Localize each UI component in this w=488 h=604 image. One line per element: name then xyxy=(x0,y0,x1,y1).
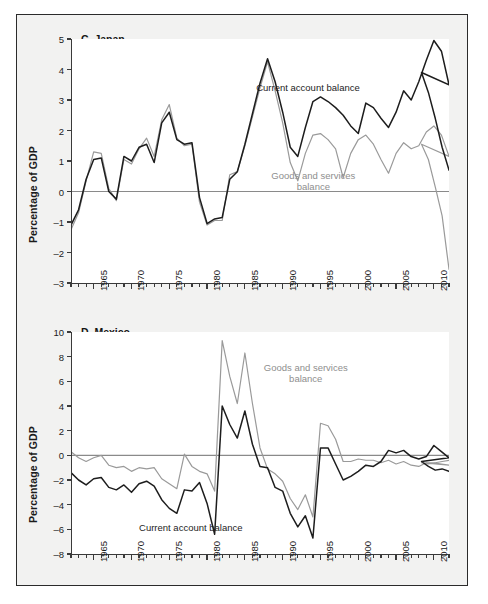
x-axis-minor-tick xyxy=(78,554,79,558)
y-axis-tick-label: 1 xyxy=(41,156,64,167)
y-axis-tick-label: 0 xyxy=(41,450,64,461)
x-axis-major-tick xyxy=(206,554,207,560)
series-annotation: Current account balance xyxy=(139,522,243,534)
x-axis-minor-tick xyxy=(229,283,230,287)
x-axis-minor-tick xyxy=(146,283,147,287)
y-axis-tick xyxy=(67,381,72,382)
x-axis-minor-tick xyxy=(123,554,124,558)
y-axis-tick xyxy=(67,504,72,505)
x-axis-minor-tick xyxy=(365,283,366,287)
y-axis-tick xyxy=(67,331,72,332)
y-axis-tick-label: –4 xyxy=(41,499,64,510)
x-axis-minor-tick xyxy=(403,283,404,287)
x-axis-minor-tick xyxy=(312,554,313,558)
x-axis-tick-label: 2005 xyxy=(400,270,411,291)
x-axis-major-tick xyxy=(395,283,396,289)
x-axis-minor-tick xyxy=(373,283,374,287)
x-axis-major-tick xyxy=(282,283,283,289)
x-axis-tick-label: 1965 xyxy=(98,541,109,562)
x-axis-minor-tick xyxy=(327,554,328,558)
plot-area-mexico xyxy=(71,332,449,554)
x-axis-minor-tick xyxy=(86,554,87,558)
x-axis-tick-label: 2005 xyxy=(400,541,411,562)
x-axis-major-tick xyxy=(244,554,245,560)
chart-panel-japan: Percentage of GDP C. Japan –3–2–10123451… xyxy=(17,15,469,311)
y-axis-tick xyxy=(67,160,72,161)
x-axis-tick-label: 1970 xyxy=(135,541,146,562)
x-axis-major-tick xyxy=(320,283,321,289)
y-axis-tick xyxy=(67,479,72,480)
x-axis-minor-tick xyxy=(138,283,139,287)
figure-frame: Percentage of GDP C. Japan –3–2–10123451… xyxy=(16,14,468,586)
x-axis-minor-tick xyxy=(184,283,185,287)
x-axis-minor-tick xyxy=(70,554,71,558)
y-axis-tick-label: 0 xyxy=(41,186,64,197)
x-axis-minor-tick xyxy=(335,554,336,558)
x-axis-minor-tick xyxy=(275,283,276,287)
x-axis-major-tick xyxy=(93,554,94,560)
x-axis-minor-tick xyxy=(123,283,124,287)
x-axis-minor-tick xyxy=(305,283,306,287)
x-axis-minor-tick xyxy=(252,554,253,558)
y-axis-label-japan: Percentage of GDP xyxy=(27,146,39,243)
x-axis-major-tick xyxy=(395,554,396,560)
y-axis-tick-label: –8 xyxy=(41,549,64,560)
y-axis-tick-label: –3 xyxy=(41,278,64,289)
x-axis-minor-tick xyxy=(184,554,185,558)
y-axis-tick xyxy=(67,99,72,100)
x-axis-minor-tick xyxy=(305,554,306,558)
x-axis-major-tick xyxy=(320,554,321,560)
x-axis-minor-tick xyxy=(154,283,155,287)
x-axis-minor-tick xyxy=(426,554,427,558)
x-axis-minor-tick xyxy=(343,554,344,558)
x-axis-minor-tick xyxy=(191,554,192,558)
plot-area-japan xyxy=(71,39,449,283)
y-axis-tick xyxy=(67,430,72,431)
x-axis-minor-tick xyxy=(418,554,419,558)
x-axis-major-tick xyxy=(131,554,132,560)
x-axis-major-tick xyxy=(433,554,434,560)
x-axis-minor-tick xyxy=(335,283,336,287)
x-axis-minor-tick xyxy=(199,554,200,558)
x-axis-minor-tick xyxy=(176,554,177,558)
series-canvas-japan xyxy=(71,39,449,283)
x-axis-minor-tick xyxy=(108,283,109,287)
x-axis-minor-tick xyxy=(237,283,238,287)
chart-panel-mexico: Percentage of GDP D. Mexico –8–6–4–20246… xyxy=(17,311,469,585)
y-axis-tick xyxy=(67,69,72,70)
x-axis-major-tick xyxy=(93,283,94,289)
series-annotation: Goods and servicesbalance xyxy=(264,362,348,385)
x-axis-minor-tick xyxy=(108,554,109,558)
x-axis-minor-tick xyxy=(116,283,117,287)
x-axis-minor-tick xyxy=(70,283,71,287)
x-axis-minor-tick xyxy=(297,554,298,558)
x-axis-minor-tick xyxy=(222,283,223,287)
x-axis-minor-tick xyxy=(297,283,298,287)
x-axis-minor-tick xyxy=(441,283,442,287)
series-annotation: Goods and servicesbalance xyxy=(271,170,355,193)
x-axis-minor-tick xyxy=(327,283,328,287)
x-axis-tick-label: 1995 xyxy=(324,270,335,291)
x-axis-minor-tick xyxy=(448,554,449,558)
x-axis-minor-tick xyxy=(426,283,427,287)
x-axis-major-tick xyxy=(131,283,132,289)
x-axis-minor-tick xyxy=(146,554,147,558)
x-axis-minor-tick xyxy=(214,554,215,558)
x-axis-minor-tick xyxy=(411,283,412,287)
x-axis-tick-label: 1985 xyxy=(249,541,260,562)
x-axis-minor-tick xyxy=(380,554,381,558)
x-axis-tick-label: 2000 xyxy=(362,270,373,291)
x-axis-minor-tick xyxy=(350,554,351,558)
y-axis-tick-label: –2 xyxy=(41,475,64,486)
x-axis-major-tick xyxy=(206,283,207,289)
x-axis-tick-label: 1980 xyxy=(211,541,222,562)
x-axis-minor-tick xyxy=(373,554,374,558)
x-axis-minor-tick xyxy=(290,283,291,287)
x-axis-minor-tick xyxy=(267,283,268,287)
x-axis-minor-tick xyxy=(411,554,412,558)
x-axis-minor-tick xyxy=(101,283,102,287)
x-axis-minor-tick xyxy=(259,554,260,558)
y-axis-tick xyxy=(67,38,72,39)
x-axis-minor-tick xyxy=(138,554,139,558)
x-axis-minor-tick xyxy=(350,283,351,287)
